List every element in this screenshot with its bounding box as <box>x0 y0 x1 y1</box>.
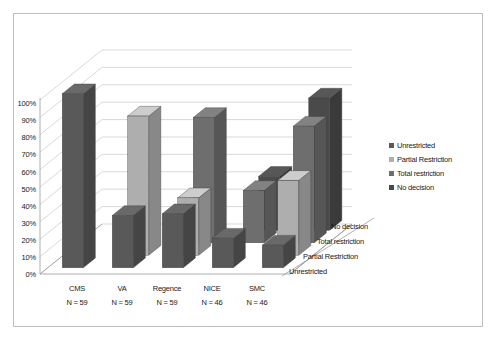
z-label-no-decision: No decision <box>331 222 368 231</box>
y-tick-80: 80% <box>6 133 36 142</box>
y-tick-30: 30% <box>6 219 36 228</box>
bar-regence-unrestricted <box>162 204 195 268</box>
legend-swatch-icon <box>389 185 394 190</box>
y-tick-90: 90% <box>6 116 36 125</box>
legend-swatch-icon <box>389 171 394 176</box>
chart-legend: Unrestricted Partial Restriction Total r… <box>389 138 452 194</box>
z-label-unrestricted: Unrestricted <box>289 267 327 276</box>
y-tick-10: 10% <box>6 253 36 262</box>
legend-swatch-icon <box>389 143 394 148</box>
bars-group <box>62 84 342 268</box>
z-label-partial-restriction: Partial Restriction <box>303 252 358 261</box>
legend-label: Total restriction <box>397 169 444 178</box>
legend-item-total-restriction: Total restriction <box>389 166 452 180</box>
legend-label: Partial Restriction <box>397 155 452 164</box>
legend-swatch-icon <box>389 157 394 162</box>
z-label-total-restriction: Total restriction <box>317 237 364 246</box>
legend-item-no-decision: No decision <box>389 180 452 194</box>
y-tick-0: 0% <box>6 270 36 279</box>
y-tick-40: 40% <box>6 202 36 211</box>
y-tick-60: 60% <box>6 168 36 177</box>
y-tick-20: 20% <box>6 236 36 245</box>
bar-nice-unrestricted <box>212 228 245 267</box>
bar-nice-total-restriction <box>243 181 276 243</box>
legend-label: Unrestricted <box>397 141 435 150</box>
bar-va-unrestricted <box>112 206 145 268</box>
y-tick-100: 100% <box>6 99 36 108</box>
chart-root: 100% 90% 80% 70% 60% 50% 40% 30% 20% 10%… <box>0 0 497 341</box>
legend-label: No decision <box>397 183 434 192</box>
legend-item-unrestricted: Unrestricted <box>389 138 452 152</box>
y-tick-50: 50% <box>6 185 36 194</box>
x-label-smc: SMC <box>229 284 285 293</box>
legend-item-partial-restriction: Partial Restriction <box>389 152 452 166</box>
bar-cms-unrestricted <box>62 84 95 268</box>
y-tick-70: 70% <box>6 150 36 159</box>
x-sublabel-smc: N = 46 <box>229 298 285 307</box>
